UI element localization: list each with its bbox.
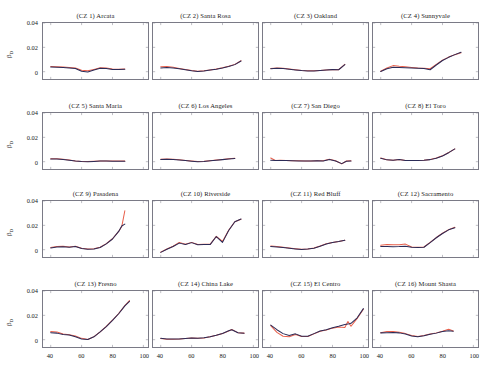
plot-area-2 bbox=[152, 22, 259, 80]
plot-area-6 bbox=[152, 112, 259, 170]
y-tick-label: 0.02 bbox=[8, 44, 38, 51]
y-axis-label: βD bbox=[5, 51, 14, 58]
panel-title: (CZ 5) Santa Maria bbox=[42, 102, 149, 110]
x-tick-label: 80 bbox=[321, 352, 345, 359]
panel-title: (CZ 2) Santa Rosa bbox=[152, 12, 259, 20]
panel-title: (CZ 7) San Diego bbox=[262, 102, 369, 110]
x-tick-label: 40 bbox=[38, 352, 62, 359]
panel-title: (CZ 6) Los Angeles bbox=[152, 102, 259, 110]
panel-title: (CZ 4) Sunnyvale bbox=[372, 12, 479, 20]
panel-title: (CZ 8) El Toro bbox=[372, 102, 479, 110]
panel-title: (CZ 3) Oakland bbox=[262, 12, 369, 20]
y-tick-label: 0 bbox=[8, 247, 38, 254]
plot-area-3 bbox=[262, 22, 369, 80]
plot-area-16 bbox=[372, 290, 479, 348]
panel-title: (CZ 12) Sacramento bbox=[372, 190, 479, 198]
x-tick-label: 60 bbox=[69, 352, 93, 359]
y-axis-label: βD bbox=[5, 141, 14, 148]
y-tick-label: 0.04 bbox=[8, 287, 38, 294]
y-tick-label: 0 bbox=[8, 337, 38, 344]
plot-area-9 bbox=[42, 200, 149, 258]
panel-title: (CZ 10) Riverside bbox=[152, 190, 259, 198]
plot-area-13 bbox=[42, 290, 149, 348]
y-axis-label-text: β bbox=[5, 232, 13, 236]
y-tick-label: 0 bbox=[8, 159, 38, 166]
x-tick-label: 80 bbox=[211, 352, 235, 359]
x-tick-label: 40 bbox=[368, 352, 392, 359]
x-tick-label: 100 bbox=[462, 352, 484, 359]
y-tick-label: 0.04 bbox=[8, 109, 38, 116]
x-tick-label: 80 bbox=[101, 352, 125, 359]
plot-area-8 bbox=[372, 112, 479, 170]
panel-title: (CZ 9) Pasadena bbox=[42, 190, 149, 198]
panel-title: (CZ 16) Mount Shasta bbox=[372, 280, 479, 288]
plot-area-5 bbox=[42, 112, 149, 170]
y-tick-label: 0 bbox=[8, 69, 38, 76]
x-tick-label: 40 bbox=[258, 352, 282, 359]
y-tick-label: 0.04 bbox=[8, 19, 38, 26]
y-axis-label-subscript: D bbox=[9, 51, 14, 55]
panel-title: (CZ 11) Red Bluff bbox=[262, 190, 369, 198]
x-tick-label: 40 bbox=[148, 352, 172, 359]
y-tick-label: 0.02 bbox=[8, 222, 38, 229]
plot-area-7 bbox=[262, 112, 369, 170]
y-axis-label-subscript: D bbox=[9, 141, 14, 145]
plot-area-11 bbox=[262, 200, 369, 258]
panel-title: (CZ 1) Arcata bbox=[42, 12, 149, 20]
plot-area-1 bbox=[42, 22, 149, 80]
plot-area-15 bbox=[262, 290, 369, 348]
y-axis-label: βD bbox=[5, 319, 14, 326]
y-axis-label-subscript: D bbox=[9, 229, 14, 233]
y-axis-label-text: β bbox=[5, 322, 13, 326]
y-axis-label: βD bbox=[5, 229, 14, 236]
plot-area-4 bbox=[372, 22, 479, 80]
panel-title: (CZ 13) Fresno bbox=[42, 280, 149, 288]
plot-area-14 bbox=[152, 290, 259, 348]
x-tick-label: 60 bbox=[179, 352, 203, 359]
x-tick-label: 60 bbox=[399, 352, 423, 359]
y-axis-label-subscript: D bbox=[9, 319, 14, 323]
panel-title: (CZ 14) China Lake bbox=[152, 280, 259, 288]
x-tick-label: 60 bbox=[289, 352, 313, 359]
y-axis-label-text: β bbox=[5, 144, 13, 148]
plot-area-12 bbox=[372, 200, 479, 258]
y-tick-label: 0.02 bbox=[8, 134, 38, 141]
panel-title: (CZ 15) El Centro bbox=[262, 280, 369, 288]
y-tick-label: 0.04 bbox=[8, 197, 38, 204]
x-tick-label: 80 bbox=[431, 352, 455, 359]
plot-area-10 bbox=[152, 200, 259, 258]
y-axis-label-text: β bbox=[5, 54, 13, 58]
y-tick-label: 0.02 bbox=[8, 312, 38, 319]
